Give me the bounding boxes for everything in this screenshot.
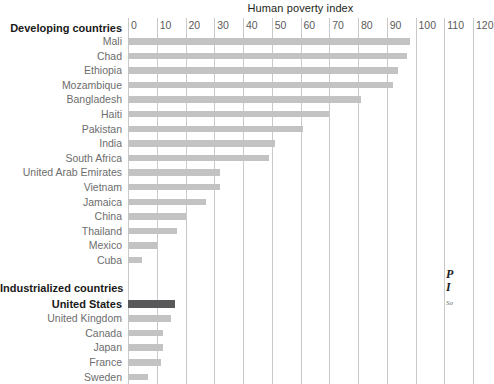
bar [128,184,220,191]
bar-row [128,78,473,93]
gridline [473,18,474,384]
bar-row [128,224,473,239]
bar [128,344,163,351]
footnote-line-1: P [446,268,480,281]
category-label: Ethiopia [0,63,122,78]
footnote-source: So [446,299,480,307]
bar [128,67,398,74]
bar-row [128,151,473,166]
x-axis-tick-label: 120 [473,18,494,32]
bar [128,315,171,322]
bar-row [128,165,473,180]
x-axis-tick-label: 90 [387,18,402,32]
category-label: United Kingdom [0,311,122,326]
category-label: Mexico [0,238,122,253]
bar [128,155,269,162]
bar [128,111,329,118]
bar-row [128,297,473,312]
bar [128,169,220,176]
bar-rows [128,34,473,384]
bar-highlighted [128,300,175,308]
bar [128,199,206,206]
x-axis-tick-label: 0 [128,18,137,32]
x-axis-tick-label: 50 [272,18,287,32]
footnote-line-2: I [446,281,480,294]
bar-row [128,92,473,107]
x-axis-tick-label: 20 [186,18,201,32]
bar-row [128,122,473,137]
bar-row [128,107,473,122]
category-label: Haiti [0,107,122,122]
category-label: Cuba [0,253,122,268]
bar [128,359,161,366]
bar-row-spacer [128,268,473,283]
category-label-column: MaliChadEthiopiaMozambiqueBangladeshHait… [0,34,122,384]
bar-row [128,209,473,224]
bar-row [128,370,473,384]
x-axis: 0102030405060708090100110120 [128,18,473,34]
bar [128,330,163,337]
bar [128,53,407,60]
x-axis-tick-label: 10 [157,18,172,32]
bar [128,257,142,264]
x-axis-tick-label: 60 [301,18,316,32]
bar [128,140,275,147]
category-label: Bangladesh [0,92,122,107]
x-axis-tick-label: 100 [416,18,437,32]
x-axis-tick-label: 40 [243,18,258,32]
category-label: Sweden [0,370,122,384]
bar [128,228,177,235]
bar [128,126,303,133]
group-heading-developing: Developing countries [0,22,122,34]
category-label: France [0,355,122,370]
category-label: Mali [0,34,122,49]
category-label-spacer [0,282,122,297]
category-label: South Africa [0,151,122,166]
bar-row [128,253,473,268]
category-label: Jamaica [0,195,122,210]
bar-row [128,180,473,195]
category-label: China [0,209,122,224]
bar-row [128,136,473,151]
bar-row [128,63,473,78]
bar [128,213,186,220]
bar [128,96,361,103]
category-label: Japan [0,340,122,355]
category-label: Thailand [0,224,122,239]
category-label: United States [0,297,122,312]
x-axis-tick-label: 30 [214,18,229,32]
chart-title: Human poverty index [128,2,473,14]
category-label-spacer [0,268,122,283]
category-label: Pakistan [0,122,122,137]
bar-row [128,355,473,370]
bar-row [128,326,473,341]
bar-row-spacer [128,282,473,297]
category-label: Canada [0,326,122,341]
bar-row [128,238,473,253]
bar [128,374,148,381]
x-axis-tick-label: 110 [444,18,464,32]
bar-row [128,195,473,210]
category-label: Chad [0,49,122,64]
bar [128,38,410,45]
bar [128,82,393,89]
bar-row [128,49,473,64]
category-label: Vietnam [0,180,122,195]
bar-row [128,34,473,49]
bar [128,242,157,249]
bar-row [128,311,473,326]
plot-area: 0102030405060708090100110120 [128,18,473,338]
bar-row [128,340,473,355]
x-axis-tick-label: 80 [358,18,373,32]
footnote-block: P I So [446,268,480,307]
category-label: Mozambique [0,78,122,93]
category-label: United Arab Emirates [0,165,122,180]
category-label: India [0,136,122,151]
x-axis-tick-label: 70 [329,18,344,32]
